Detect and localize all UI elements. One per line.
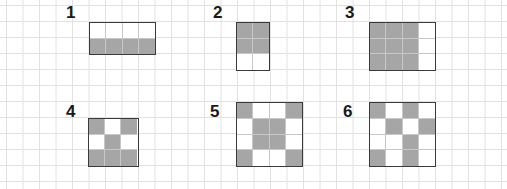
- shaded-cell: [237, 150, 253, 166]
- shaded-cell: [370, 150, 386, 166]
- shaded-cell: [105, 150, 121, 166]
- unshaded-cell: [106, 23, 122, 39]
- shape-label-3: 3: [345, 4, 354, 21]
- shape-label-5: 5: [210, 103, 219, 120]
- shaded-cell: [123, 39, 139, 55]
- unshaded-cell: [237, 135, 253, 151]
- shaded-cell: [370, 23, 386, 39]
- shape-label-4: 4: [66, 103, 75, 120]
- shape-2: [236, 22, 270, 71]
- shaded-cell: [386, 39, 402, 55]
- shaded-cell: [419, 119, 435, 135]
- shaded-cell: [403, 150, 419, 166]
- shaded-cell: [105, 135, 121, 151]
- unshaded-cell: [139, 23, 155, 39]
- shaded-cell: [253, 39, 269, 55]
- unshaded-cell: [237, 54, 253, 70]
- shaded-cell: [403, 135, 419, 151]
- shaded-cell: [386, 23, 402, 39]
- shaded-cell: [286, 150, 302, 166]
- shaded-cell: [253, 135, 269, 151]
- unshaded-cell: [419, 135, 435, 151]
- shaded-cell: [270, 119, 286, 135]
- shaded-cell: [253, 23, 269, 39]
- shape-label-6: 6: [343, 103, 352, 120]
- unshaded-cell: [89, 135, 105, 151]
- unshaded-cell: [286, 119, 302, 135]
- unshaded-cell: [419, 103, 435, 119]
- shaded-cell: [403, 39, 419, 55]
- shaded-cell: [106, 39, 122, 55]
- unshaded-cell: [253, 54, 269, 70]
- shaded-cell: [270, 135, 286, 151]
- shaded-cell: [370, 39, 386, 55]
- unshaded-cell: [419, 150, 435, 166]
- shaded-cell: [237, 39, 253, 55]
- unshaded-cell: [121, 135, 137, 151]
- unshaded-cell: [123, 23, 139, 39]
- shaded-cell: [370, 54, 386, 70]
- unshaded-cell: [386, 103, 402, 119]
- unshaded-cell: [419, 39, 435, 55]
- shaded-cell: [89, 150, 105, 166]
- shaded-cell: [237, 23, 253, 39]
- unshaded-cell: [386, 135, 402, 151]
- shaded-cell: [386, 54, 402, 70]
- shaded-cell: [403, 54, 419, 70]
- unshaded-cell: [370, 135, 386, 151]
- unshaded-cell: [270, 103, 286, 119]
- shape-4: [88, 118, 139, 167]
- shape-label-2: 2: [213, 4, 222, 21]
- shaded-cell: [286, 103, 302, 119]
- unshaded-cell: [419, 54, 435, 70]
- unshaded-cell: [105, 119, 121, 135]
- shaded-cell: [90, 39, 106, 55]
- shape-1: [89, 22, 156, 55]
- unshaded-cell: [403, 119, 419, 135]
- unshaded-cell: [253, 103, 269, 119]
- unshaded-cell: [270, 150, 286, 166]
- unshaded-cell: [286, 135, 302, 151]
- shaded-cell: [386, 119, 402, 135]
- shaded-cell: [253, 119, 269, 135]
- shape-3: [369, 22, 436, 71]
- unshaded-cell: [370, 119, 386, 135]
- unshaded-cell: [90, 23, 106, 39]
- shape-label-1: 1: [66, 4, 75, 21]
- shaded-cell: [403, 23, 419, 39]
- shaded-cell: [121, 119, 137, 135]
- shape-5: [236, 102, 303, 167]
- shaded-cell: [370, 103, 386, 119]
- shaded-cell: [89, 119, 105, 135]
- unshaded-cell: [237, 119, 253, 135]
- unshaded-cell: [253, 150, 269, 166]
- shaded-cell: [403, 103, 419, 119]
- shape-6: [369, 102, 436, 167]
- unshaded-cell: [419, 23, 435, 39]
- shaded-cell: [139, 39, 155, 55]
- unshaded-cell: [386, 150, 402, 166]
- shaded-cell: [237, 103, 253, 119]
- shaded-cell: [121, 150, 137, 166]
